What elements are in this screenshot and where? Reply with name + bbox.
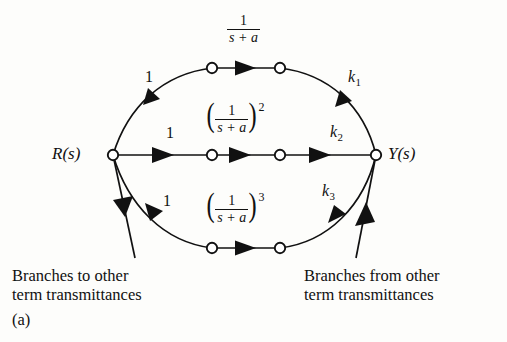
gain-top-output-subscript: 1 bbox=[356, 76, 361, 88]
arrowhead-middle-transmittance bbox=[229, 147, 251, 163]
gain-middle-output-base: k bbox=[330, 123, 337, 140]
arrowhead-bottom-transmittance bbox=[235, 241, 256, 256]
arrowhead-top-input bbox=[143, 88, 160, 105]
node-middle-right bbox=[275, 150, 285, 160]
transmittance-middle-numerator: 1 bbox=[215, 104, 248, 118]
caption-left-line2: term transmittances bbox=[12, 285, 142, 304]
figure-index-label: (a) bbox=[12, 310, 30, 330]
transmittance-bottom-denominator: s + a bbox=[215, 211, 248, 225]
caption-right-line1: Branches from other bbox=[304, 266, 440, 285]
gain-middle-output-subscript: 2 bbox=[338, 131, 343, 143]
paren-right-icon: ) bbox=[249, 189, 257, 221]
arrowhead-middle-output bbox=[309, 147, 331, 163]
node-top-right bbox=[275, 63, 285, 73]
input-node-label: R(s) bbox=[52, 144, 80, 164]
gain-top-input: 1 bbox=[145, 68, 153, 86]
caption-left-line1: Branches to other bbox=[12, 266, 142, 285]
arrowhead-from-other-transmittances bbox=[355, 202, 375, 226]
node-middle-left bbox=[207, 150, 217, 160]
transmittance-middle: ( 1 s + a ) 2 bbox=[205, 98, 265, 135]
transmittance-bottom-numerator: 1 bbox=[215, 194, 248, 208]
node-input-rs bbox=[108, 150, 118, 160]
transmittance-top-numerator: 1 bbox=[227, 14, 260, 28]
arrowhead-bottom-input bbox=[145, 203, 163, 221]
arrowhead-to-other-transmittances bbox=[113, 196, 133, 217]
gain-bottom-output-subscript: 3 bbox=[330, 190, 335, 202]
paren-left-icon: ( bbox=[207, 189, 215, 221]
branch-top-output bbox=[280, 68, 376, 155]
gain-bottom-output-base: k bbox=[322, 182, 329, 199]
paren-left-icon: ( bbox=[207, 99, 215, 131]
transmittance-middle-denominator: s + a bbox=[215, 121, 248, 135]
transmittance-top-denominator: s + a bbox=[227, 31, 260, 45]
gain-top-input-value: 1 bbox=[145, 68, 153, 85]
transmittance-bottom: ( 1 s + a ) 3 bbox=[205, 188, 265, 225]
node-top-left bbox=[207, 63, 217, 73]
gain-bottom-output: k3 bbox=[322, 182, 335, 202]
output-node-label: Y(s) bbox=[388, 144, 415, 164]
caption-left: Branches to other term transmittances bbox=[12, 266, 142, 305]
node-bottom-left bbox=[207, 243, 217, 253]
arrowhead-bottom-output bbox=[328, 205, 346, 223]
caption-right: Branches from other term transmittances bbox=[304, 266, 440, 305]
gain-middle-input: 1 bbox=[166, 124, 174, 142]
arrowhead-middle-input bbox=[152, 147, 174, 163]
gain-bottom-input: 1 bbox=[163, 192, 171, 210]
node-output-ys bbox=[371, 150, 381, 160]
gain-bottom-input-value: 1 bbox=[163, 192, 171, 209]
arrowhead-top-transmittance bbox=[235, 61, 256, 76]
branch-top-input bbox=[113, 68, 212, 155]
gain-middle-output: k2 bbox=[330, 123, 343, 143]
node-bottom-right bbox=[275, 243, 285, 253]
transmittance-top: 1 s + a bbox=[227, 14, 260, 45]
transmittance-bottom-exponent: 3 bbox=[259, 190, 265, 205]
gain-top-output-base: k bbox=[348, 68, 355, 85]
gain-middle-input-value: 1 bbox=[166, 124, 174, 141]
caption-right-line2: term transmittances bbox=[304, 285, 440, 304]
gain-top-output: k1 bbox=[348, 68, 361, 88]
transmittance-middle-exponent: 2 bbox=[259, 100, 265, 115]
paren-right-icon: ) bbox=[249, 99, 257, 131]
